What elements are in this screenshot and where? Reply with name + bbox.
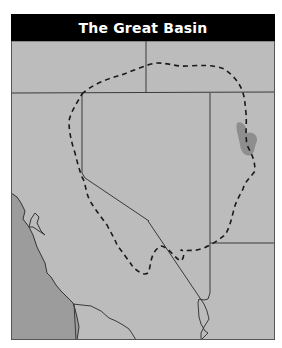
map-title-text: The Great Basin [78, 20, 207, 36]
map-canvas [11, 41, 275, 340]
map-figure: The Great Basin [11, 14, 275, 340]
map-area [11, 41, 275, 340]
map-title: The Great Basin [11, 14, 275, 41]
